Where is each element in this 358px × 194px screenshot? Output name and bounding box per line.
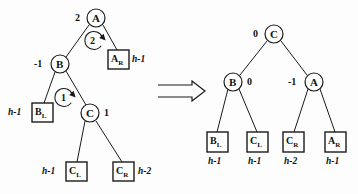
height-label-BL-right: h-1: [208, 157, 221, 167]
balance-factor-C-right: 0: [253, 29, 258, 39]
edge-C-A-right: [281, 41, 307, 75]
box-label-CL-left: CL: [69, 166, 81, 179]
box-label-AR-left: AR: [111, 54, 123, 67]
edge-A-B: [66, 25, 89, 57]
rotation-arrow-2-head: [99, 34, 105, 41]
edge-A-CR-right: [294, 89, 308, 132]
rotation-step-1-label: 1: [61, 93, 66, 103]
balance-factor-A-left: 2: [75, 13, 80, 23]
edge-B-BL: [44, 72, 55, 103]
balance-factor-B-left: -1: [34, 59, 42, 69]
balance-factor-A-right: -1: [288, 77, 296, 87]
box-label-AR-right: AR: [328, 136, 340, 149]
rotation-arrow-1-head: [69, 91, 75, 98]
balance-factor-B-right: 0: [247, 77, 252, 87]
edge-C-CL: [77, 121, 85, 162]
right-tree-boxes: [207, 132, 346, 152]
height-label-CL-right: h-1: [248, 157, 261, 167]
rotation-step-2-label: 2: [90, 36, 95, 46]
node-label-A-left: A: [92, 13, 100, 24]
edge-B-BL-right: [217, 89, 228, 132]
transform-arrow: [158, 81, 205, 101]
height-label-CR-right: h-2: [284, 157, 297, 167]
edge-A-AR-right: [320, 89, 335, 132]
node-label-B-right: B: [229, 77, 236, 88]
box-label-CL-right: CL: [250, 136, 262, 149]
balance-factor-C-left: 1: [104, 108, 109, 118]
node-label-B-left: B: [56, 59, 63, 70]
node-label-C-right: C: [270, 29, 278, 40]
figure-graphics: [0, 0, 358, 194]
edge-A-AR: [103, 25, 117, 50]
edge-C-B-right: [240, 41, 267, 75]
edge-B-C: [66, 71, 86, 105]
edge-B-CL-right: [239, 89, 257, 132]
edge-C-CR: [96, 121, 122, 162]
height-label-CR-left: h-2: [138, 167, 151, 177]
height-label-BL-left: h-1: [8, 108, 21, 118]
height-label-AR-left: h-1: [132, 55, 145, 65]
box-label-BL-right: BL: [210, 136, 221, 149]
height-label-CL-left: h-1: [42, 167, 55, 177]
node-label-C-left: C: [86, 108, 94, 119]
box-label-CR-right: CR: [286, 136, 298, 149]
height-label-AR-right: h-1: [326, 157, 339, 167]
node-label-A-right: A: [310, 77, 318, 88]
box-label-BL-left: BL: [35, 107, 46, 120]
box-label-CR-left: CR: [116, 166, 128, 179]
avl-rotation-figure: A B C 2 -1 1 2 1 AR h-1 BL h-1 CL h-1 CR…: [0, 0, 358, 194]
